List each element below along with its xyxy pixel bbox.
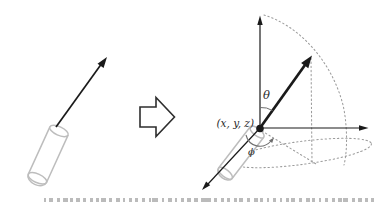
right-cylinder [215, 124, 266, 183]
direction-arrow [56, 57, 107, 127]
meridian-arc [264, 15, 347, 165]
phi-label: ϕ [248, 146, 255, 157]
origin-coordinates-label: (x, y, z) [216, 117, 254, 129]
figure-canvas: θ ϕ (x, y, z) [0, 0, 379, 203]
direction-arrow-shaft [56, 65, 101, 128]
cropped-caption-strip [44, 198, 376, 202]
x-axis [202, 128, 260, 190]
left-cylinder [26, 123, 70, 189]
y-axis-arrowhead-icon [359, 125, 369, 131]
theta-label: θ [263, 88, 270, 102]
origin-dot [256, 125, 264, 133]
floor-projection-line [262, 131, 316, 164]
z-axis-arrowhead-icon [257, 16, 262, 26]
vertical-projection-line [311, 58, 312, 162]
z-axis [257, 16, 262, 129]
y-axis [260, 125, 369, 131]
transform-arrow-icon [140, 98, 175, 137]
theta-angle-arc [260, 107, 273, 110]
cylinder-orientation-diagram: θ ϕ (x, y, z) [0, 0, 379, 203]
